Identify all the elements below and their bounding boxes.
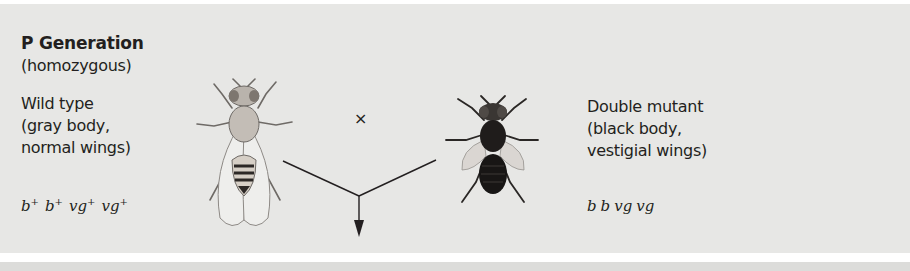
double-mutant-fly-icon (0, 0, 910, 271)
